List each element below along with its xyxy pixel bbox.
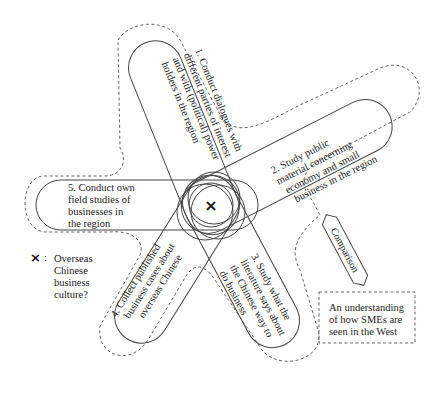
- west-box-label: An understanding of how SMEs are seen in…: [329, 302, 407, 337]
- west-understanding-box: An understanding of how SMEs are seen in…: [319, 292, 415, 343]
- research-approach-diagram: 5. Conduct own field studies of business…: [0, 0, 435, 399]
- legend: × : Overseas Chinese business culture?: [30, 250, 95, 300]
- comparison-arrow: Comparison: [319, 211, 371, 289]
- legend-x-symbol: ×: [30, 250, 41, 265]
- legend-separator: :: [44, 252, 47, 263]
- legend-label: Overseas Chinese business culture?: [54, 253, 95, 300]
- center-x-marker: ×: [204, 196, 217, 215]
